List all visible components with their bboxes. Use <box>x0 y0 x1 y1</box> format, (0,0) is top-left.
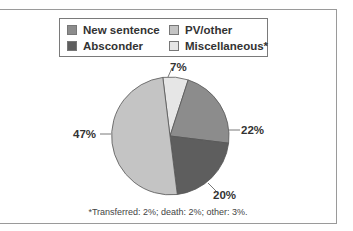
slice-absconder <box>170 136 229 195</box>
slice-label-absconder: 20% <box>213 189 236 201</box>
slice-label-pv-other: 47% <box>73 128 96 140</box>
slice-label-new-sentence: 22% <box>241 124 264 136</box>
slice-label-misc: 7% <box>170 61 187 73</box>
pie-chart <box>0 0 353 231</box>
chart-footnote: *Transferred: 2%; death: 2%; other: 3%. <box>0 207 336 217</box>
